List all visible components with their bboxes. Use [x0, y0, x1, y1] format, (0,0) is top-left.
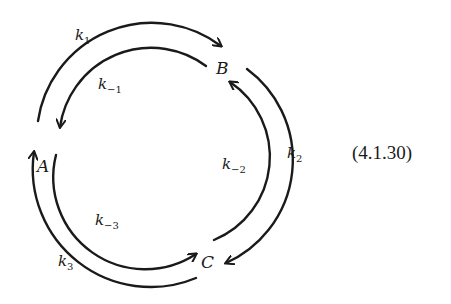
rate-k-1-label: k−1 [98, 75, 122, 95]
rate-k-3-label: k−3 [95, 211, 119, 231]
equation-number: (4.1.30) [352, 142, 412, 164]
node-c-label: C [201, 252, 214, 272]
rate-k2-label: k2 [287, 144, 302, 164]
rate-k-2-label: k−2 [222, 155, 246, 175]
rate-k1-label: k1 [75, 26, 90, 46]
node-a-label: A [35, 156, 49, 176]
reaction-cycle-diagram: A B C k1 k−1 k2 k−2 k3 k−3 (4.1.30) [0, 0, 451, 304]
arrow-k-3-a-to-c [53, 155, 196, 269]
arrow-k-1-b-to-a [60, 48, 206, 127]
node-b-label: B [215, 58, 229, 78]
